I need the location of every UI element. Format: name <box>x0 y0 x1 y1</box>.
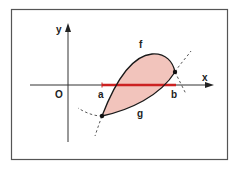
x-axis-label: x <box>202 72 208 83</box>
area-between-curves-diagram: y x O a b f g <box>0 0 233 173</box>
curve-g-extension-upper <box>175 51 191 72</box>
curve-g-extension-lower <box>78 108 102 116</box>
f-label: f <box>139 39 143 50</box>
a-label: a <box>98 89 104 100</box>
origin-label: O <box>55 89 63 100</box>
g-label: g <box>137 108 143 119</box>
intersection-point-upper <box>173 70 177 74</box>
b-label: b <box>171 89 177 100</box>
y-axis-label: y <box>56 24 62 35</box>
y-axis-arrow-icon <box>65 23 71 32</box>
intersection-point-lower <box>100 114 104 118</box>
curve-f-extension-lower <box>95 116 102 136</box>
